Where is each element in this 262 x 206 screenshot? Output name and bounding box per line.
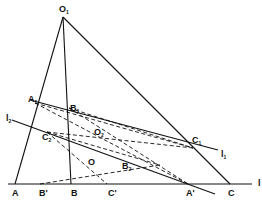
dashed-line-5 — [47, 132, 107, 184]
label-b: B — [71, 188, 78, 198]
label-bp: B' — [39, 188, 48, 198]
dashed-line-3 — [69, 108, 188, 184]
solid-line-0 — [15, 17, 63, 184]
diagram-canvas: O1A1B1l2C2O2C1l1OB2AB'BC'A'Cl — [0, 0, 262, 206]
geometry-diagram: O1A1B1l2C2O2C1l1OB2AB'BC'A'Cl — [0, 0, 262, 206]
dashed-line-0 — [35, 103, 193, 148]
label-b1: B1 — [70, 103, 80, 114]
label-o: O — [88, 157, 95, 167]
label-l2: l2 — [6, 113, 12, 124]
label-l: l — [258, 178, 261, 188]
solid-line-4 — [30, 100, 218, 150]
label-o2: O2 — [94, 127, 104, 138]
label-c: C — [228, 188, 235, 198]
label-l1: l1 — [221, 149, 227, 160]
label-a: A — [12, 188, 19, 198]
label-ap: A' — [186, 188, 195, 198]
label-cp: C' — [108, 188, 117, 198]
solid-line-1 — [63, 17, 71, 184]
label-a1: A1 — [28, 94, 38, 105]
label-o1: O1 — [59, 4, 69, 15]
label-c1: C1 — [192, 135, 202, 146]
dashed-line-4 — [35, 103, 188, 184]
